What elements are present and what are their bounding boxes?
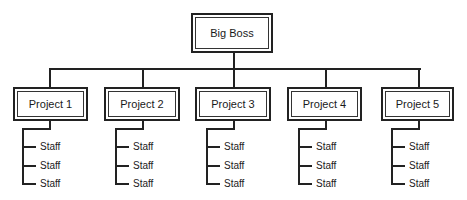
staff-tick (206, 146, 220, 148)
root-connector (233, 53, 235, 69)
staff-item: Staff (409, 160, 429, 172)
staff-item: Staff (224, 160, 244, 172)
staff-tick (391, 165, 405, 167)
staff-item: Staff (133, 141, 153, 153)
project-1-connector (49, 68, 51, 87)
project-5-connector (418, 68, 420, 87)
staff-branch-vertical (391, 128, 393, 185)
project-2-connector (142, 68, 144, 87)
project-3-connector (233, 68, 235, 87)
staff-branch-elbow (115, 128, 144, 130)
staff-tick (115, 146, 129, 148)
staff-tick (206, 183, 220, 185)
staff-item: Staff (40, 178, 60, 190)
staff-tick (298, 146, 312, 148)
staff-branch-elbow (22, 128, 51, 130)
staff-branch-vertical (115, 128, 117, 185)
staff-item: Staff (224, 178, 244, 190)
staff-item: Staff (40, 141, 60, 153)
staff-tick (391, 183, 405, 185)
staff-tick (22, 146, 36, 148)
project-label: Project 4 (303, 98, 346, 110)
project-node-3: Project 3 (195, 87, 271, 121)
staff-tick (391, 146, 405, 148)
staff-item: Staff (316, 160, 336, 172)
staff-item: Staff (316, 178, 336, 190)
staff-branch-vertical (206, 128, 208, 185)
staff-item: Staff (316, 141, 336, 153)
project-label: Project 3 (211, 98, 254, 110)
staff-item: Staff (409, 178, 429, 190)
project-node-5: Project 5 (381, 87, 454, 121)
project-label: Project 5 (396, 98, 439, 110)
staff-branch-elbow (298, 128, 327, 130)
staff-item: Staff (133, 178, 153, 190)
project-label: Project 1 (29, 98, 72, 110)
project-node-4: Project 4 (287, 87, 362, 121)
project-node-1: Project 1 (13, 87, 88, 121)
staff-tick (206, 165, 220, 167)
staff-tick (22, 183, 36, 185)
staff-tick (115, 183, 129, 185)
staff-item: Staff (224, 141, 244, 153)
project-4-connector (325, 68, 327, 87)
staff-tick (115, 165, 129, 167)
root-node-big-boss: Big Boss (191, 13, 273, 53)
staff-tick (298, 165, 312, 167)
staff-item: Staff (409, 141, 429, 153)
staff-branch-vertical (22, 128, 24, 185)
project-label: Project 2 (120, 98, 163, 110)
staff-tick (298, 183, 312, 185)
staff-branch-vertical (298, 128, 300, 185)
staff-branch-elbow (206, 128, 235, 130)
staff-item: Staff (40, 160, 60, 172)
project-node-2: Project 2 (104, 87, 180, 121)
staff-tick (22, 165, 36, 167)
root-node-label: Big Boss (210, 27, 253, 39)
org-chart: Big Boss Project 1 Project 2 Project 3 P… (0, 0, 467, 200)
project-bus-line (49, 68, 421, 70)
staff-branch-elbow (391, 128, 420, 130)
staff-item: Staff (133, 160, 153, 172)
